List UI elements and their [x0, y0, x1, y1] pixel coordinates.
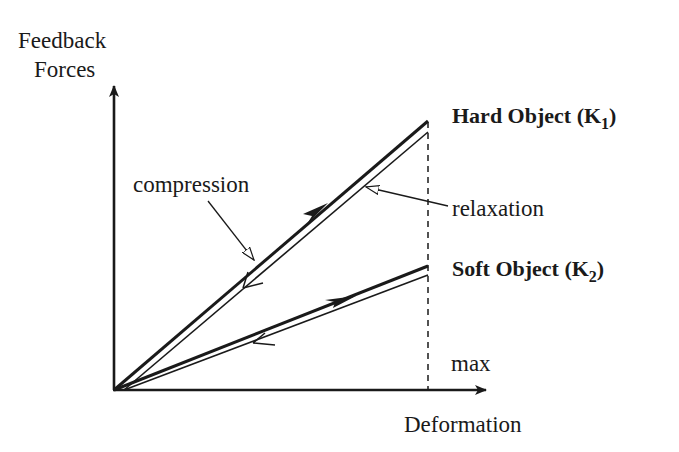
svg-text:Hard Object (K1): Hard Object (K1): [452, 103, 616, 132]
force-deformation-diagram: Feedback Forces Deformation max compress…: [0, 0, 679, 452]
x-axis-label: Deformation: [404, 412, 522, 437]
soft-relaxation-line: [124, 275, 428, 390]
y-axis-label-line2: Forces: [34, 57, 95, 82]
soft-object-label: Soft Object (K2): [452, 256, 604, 285]
relaxation-pointer-icon: [366, 187, 448, 206]
svg-text:Soft Object (K2): Soft Object (K2): [452, 256, 604, 285]
y-axis-label-line1: Feedback: [18, 28, 107, 53]
compression-label: compression: [133, 172, 250, 197]
max-label: max: [451, 351, 491, 376]
hard-compression-line: [114, 121, 428, 390]
relaxation-label: relaxation: [452, 196, 544, 221]
soft-compression-line: [114, 266, 428, 390]
compression-pointer-icon: [208, 201, 254, 260]
hard-object-label: Hard Object (K1): [452, 103, 616, 132]
hard-relaxation-line: [124, 132, 428, 390]
